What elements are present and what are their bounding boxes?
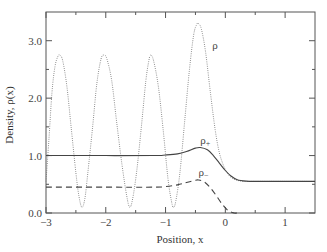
rho-total-curve	[46, 23, 315, 207]
rho-minus-label: ρ−	[198, 166, 209, 180]
y-tick-label: 1.0	[28, 150, 42, 162]
x-tick-label: 0	[223, 216, 229, 228]
y-axis-title: Density, ρ(x)	[3, 86, 16, 144]
rho-minus-curve	[46, 180, 237, 213]
x-tick-label: 1	[282, 216, 288, 228]
y-tick-label: 3.0	[28, 35, 42, 47]
axis-tick-labels: −3−2−1010.01.02.03.0	[28, 35, 288, 228]
rho-plus-curve	[46, 147, 315, 181]
data-series	[46, 23, 315, 213]
x-tick-label: −2	[100, 216, 112, 228]
axis-ticks	[46, 12, 315, 213]
density-chart: −3−2−1010.01.02.03.0 ρρ+ρ− Position, x D…	[0, 0, 327, 252]
x-tick-label: −1	[160, 216, 172, 228]
rho-total-label: ρ	[212, 39, 218, 51]
rho-plus-label: ρ+	[200, 134, 211, 148]
y-tick-label: 0.0	[28, 207, 42, 219]
y-tick-label: 2.0	[28, 92, 42, 104]
plot-frame	[46, 12, 315, 213]
x-axis-title: Position, x	[156, 233, 204, 245]
